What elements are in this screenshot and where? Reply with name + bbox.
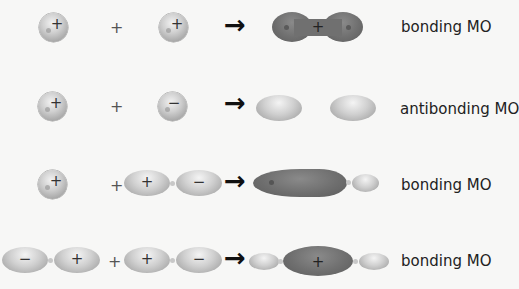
p-lobe-negative: −	[176, 247, 222, 273]
node-point	[170, 181, 175, 186]
plus-operator: +	[110, 20, 123, 36]
p-lobe-positive: +	[54, 247, 100, 273]
small-light-lobe-left	[249, 253, 279, 270]
sign-label: +	[140, 175, 154, 190]
p-orbital: + −	[124, 170, 224, 196]
p-orbital-2: + −	[124, 247, 224, 273]
sign-label: +	[49, 96, 63, 111]
bonding-mo-p-p: +	[249, 246, 389, 276]
sign-label: +	[140, 252, 154, 267]
reaction-arrow-icon: →	[224, 90, 246, 116]
node-point	[353, 259, 358, 264]
s-orbital-2: −	[158, 92, 187, 121]
s-orbital-2: +	[159, 13, 188, 42]
central-dark-lobe: +	[283, 246, 353, 276]
plus-operator: +	[110, 99, 123, 115]
p-lobe-positive: +	[124, 170, 170, 196]
sign-label: −	[18, 252, 32, 267]
antibonding-lobe-right	[330, 95, 376, 121]
p-orbital-1: − +	[2, 247, 102, 273]
p-lobe-positive: +	[124, 247, 170, 273]
mo-label: bonding MO	[401, 178, 491, 193]
s-orbital-1: +	[38, 92, 67, 121]
plus-operator: +	[108, 254, 121, 270]
sign-label: −	[192, 252, 206, 267]
mo-label: bonding MO	[401, 254, 491, 269]
reaction-arrow-icon: →	[224, 12, 246, 38]
node-point	[170, 258, 175, 263]
sign-label: +	[170, 17, 184, 32]
row-1-bonding-s-s: + + + → + bonding MO	[0, 0, 517, 70]
small-light-lobe	[352, 174, 379, 192]
node-point	[48, 258, 53, 263]
mo-label: antibonding MO	[400, 102, 519, 117]
row-4-bonding-p-p: − + + + − → + bonding MO	[0, 220, 517, 289]
antibonding-lobe-left	[256, 95, 302, 121]
sign-label: −	[167, 96, 181, 111]
sign-label: +	[70, 252, 84, 267]
reaction-arrow-icon: →	[224, 168, 246, 194]
sign-label: −	[192, 175, 206, 190]
small-light-lobe-right	[359, 253, 389, 270]
node-point	[346, 180, 351, 185]
p-lobe-negative: −	[176, 170, 222, 196]
bonding-mo-dumbbell: +	[272, 12, 363, 42]
bonding-mo-s-p	[253, 169, 379, 197]
large-dark-lobe	[253, 169, 347, 197]
row-2-antibonding-s-s: + + − → antibonding MO	[0, 75, 517, 145]
reaction-arrow-icon: →	[224, 245, 246, 271]
s-orbital: +	[38, 170, 67, 199]
sign-label: +	[311, 20, 325, 35]
mo-label: bonding MO	[401, 20, 491, 35]
sign-label: +	[49, 174, 63, 189]
p-lobe-negative: −	[2, 247, 48, 273]
row-3-bonding-s-p: + + + − → bonding MO	[0, 150, 517, 220]
s-orbital-1: +	[39, 13, 68, 42]
plus-operator: +	[110, 178, 123, 194]
sign-label: +	[311, 255, 325, 270]
sign-label: +	[50, 17, 64, 32]
